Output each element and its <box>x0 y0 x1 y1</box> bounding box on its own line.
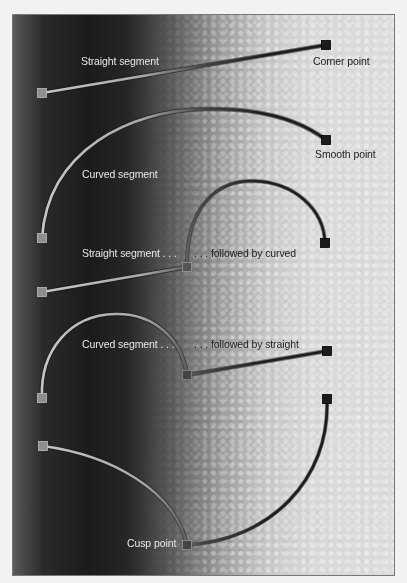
label-smooth-point: Smooth point <box>315 148 376 160</box>
label-straight-segment-then: Straight segment . . . <box>82 247 177 259</box>
cusp-point-anchor-icon <box>183 541 192 550</box>
corner-point-anchor-icon <box>183 371 192 380</box>
anchor-point-icon <box>38 89 47 98</box>
curved-segment-path <box>42 314 187 398</box>
label-followed-by-curved: . . . followed by curved <box>194 247 296 259</box>
label-straight-segment: Straight segment <box>81 55 159 67</box>
corner-point-anchor-icon <box>322 41 331 50</box>
straight-then-curved-example <box>38 181 330 297</box>
label-curved-segment: Curved segment <box>82 168 158 180</box>
corner-point-anchor-icon <box>183 263 192 272</box>
straight-segment-path <box>42 267 187 292</box>
curved-segment-path <box>43 446 187 545</box>
curved-then-straight-example <box>38 314 332 403</box>
anchor-point-icon <box>38 288 47 297</box>
straight-segment-path <box>187 351 327 375</box>
anchor-point-icon <box>38 394 47 403</box>
anchor-point-icon <box>321 239 330 248</box>
cusp-point-example <box>39 395 332 550</box>
anchor-point-icon <box>323 395 332 404</box>
anchor-point-icon <box>38 234 47 243</box>
label-followed-by-straight: . . . followed by straight <box>194 338 299 350</box>
anchor-point-icon <box>39 442 48 451</box>
label-curved-segment-then: Curved segment . . . <box>82 338 175 350</box>
anchor-point-icon <box>323 347 332 356</box>
straight-segment-example <box>38 41 331 98</box>
smooth-point-anchor-icon <box>322 136 331 145</box>
path-illustrations <box>0 0 407 583</box>
straight-segment-path <box>42 45 326 93</box>
label-cusp-point: Cusp point <box>127 537 176 549</box>
label-corner-point: Corner point <box>313 55 370 67</box>
